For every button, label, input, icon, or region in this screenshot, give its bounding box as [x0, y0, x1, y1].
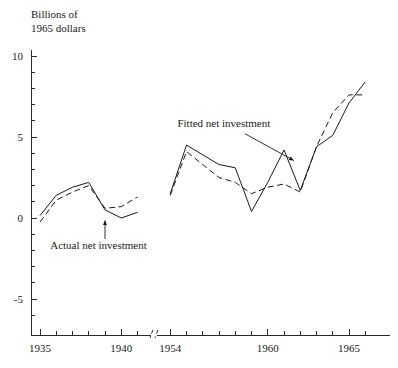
annotation-arrowhead-icon	[103, 220, 107, 225]
axes	[31, 50, 390, 335]
series-line-fitted	[170, 95, 365, 195]
x-tick-label: 1965	[338, 342, 361, 354]
x-tick-label: 1940	[110, 342, 133, 354]
annotation-label: Actual net investment	[50, 239, 147, 251]
annotation-leader-line	[245, 134, 294, 161]
axis-ticks	[31, 56, 365, 335]
series-line-actual	[40, 182, 138, 218]
x-tick-label: 1935	[29, 342, 52, 354]
data-series	[40, 82, 365, 222]
x-tick-label: 1960	[257, 342, 280, 354]
x-axis-break-symbol	[150, 330, 158, 338]
x-tick-label: 1954	[159, 342, 182, 354]
y-tick-label: -5	[14, 293, 24, 305]
y-axis-caption-group: Billions of 1965 dollars	[31, 8, 86, 34]
net-investment-line-chart: Billions of 1965 dollars 1050-5193519401…	[0, 0, 398, 368]
y-tick-label: 5	[18, 131, 24, 143]
chart-annotations: Actual net investmentFitted net investme…	[50, 117, 294, 251]
y-tick-label: 0	[18, 212, 24, 224]
axis-break-mask	[151, 334, 157, 337]
series-line-fitted	[40, 186, 138, 222]
chart-container: Billions of 1965 dollars 1050-5193519401…	[0, 0, 398, 368]
y-axis-caption-line-2: 1965 dollars	[31, 22, 86, 34]
y-tick-label: 10	[12, 50, 24, 62]
axis-tick-labels: 1050-519351940195419601965	[12, 50, 361, 354]
y-axis-caption-line-1: Billions of	[31, 8, 78, 20]
annotation-label: Fitted net investment	[177, 117, 270, 129]
